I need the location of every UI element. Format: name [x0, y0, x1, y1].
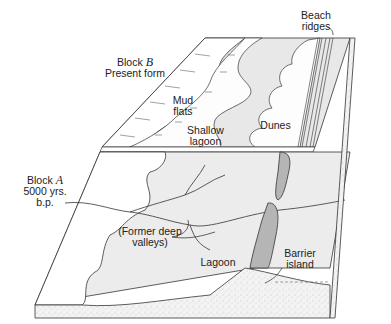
- former-valleys-label: (Former deep valleys): [115, 226, 185, 248]
- block-b-label: Block B Present form: [100, 57, 170, 79]
- mud-flats-label: Mud flats: [168, 95, 198, 117]
- block-b-front-edge: [100, 147, 315, 152]
- lagoon-label: Lagoon: [198, 257, 238, 268]
- barrier-island-label: Barrier island: [280, 248, 320, 270]
- dunes-label: Dunes: [258, 120, 293, 131]
- block-a-label: Block A 5000 yrs. b.p.: [20, 175, 70, 208]
- shallow-lagoon-label: Shallow lagoon: [183, 125, 228, 147]
- block-diagram: [0, 0, 391, 324]
- beach-ridges-label: Beach ridges: [296, 10, 336, 32]
